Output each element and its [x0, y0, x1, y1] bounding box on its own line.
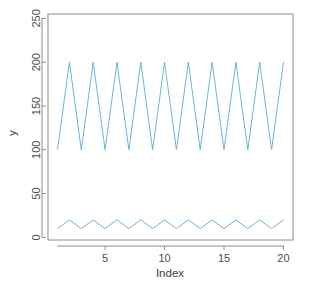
x-axis-title: Index [156, 267, 184, 279]
y-tick-label: 200 [30, 53, 42, 71]
chart-container: 050100150200250 5101520 y Index [0, 0, 315, 292]
y-tick-label: 150 [30, 97, 42, 115]
chart-background [0, 0, 315, 292]
y-tick-label: 250 [30, 9, 42, 27]
y-tick-label: 100 [30, 141, 42, 159]
line-chart: 050100150200250 5101520 y Index [0, 0, 315, 292]
x-tick-label: 15 [218, 252, 230, 264]
y-axis-title: y [6, 130, 18, 136]
x-tick-label: 5 [102, 252, 108, 264]
y-tick-label: 0 [30, 234, 42, 240]
y-tick-label: 50 [30, 187, 42, 199]
x-tick-label: 20 [277, 252, 289, 264]
x-tick-label: 10 [158, 252, 170, 264]
